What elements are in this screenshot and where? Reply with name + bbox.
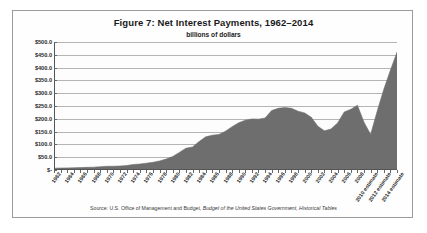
x-axis-tick-mark (67, 170, 68, 173)
area-fill-path (54, 52, 397, 170)
y-axis-tick-mark (54, 42, 57, 43)
x-axis-tick-mark (219, 170, 220, 173)
x-axis-tick-mark (113, 170, 114, 173)
x-axis-tick-mark (61, 170, 62, 173)
x-axis-tick-mark (357, 170, 358, 173)
x-axis-tick-mark (54, 170, 55, 173)
y-axis-tick-label: $350.0 (35, 77, 52, 83)
plot-area (54, 42, 397, 170)
x-axis-tick-mark (179, 170, 180, 173)
source-note-prefix: Source: U.S. Office of Management and Bu… (90, 205, 203, 211)
x-axis-tick-mark (199, 170, 200, 173)
x-axis-tick-mark (226, 170, 227, 173)
x-axis-tick-mark (140, 170, 141, 173)
x-axis-tick-mark (186, 170, 187, 173)
x-axis-tick-mark (239, 170, 240, 173)
x-axis-tick-mark (100, 170, 101, 173)
x-axis-tick-mark (397, 170, 398, 173)
x-axis-tick-mark (120, 170, 121, 173)
x-axis-tick-mark (318, 170, 319, 173)
y-axis-tick-label: $450.0 (35, 52, 52, 58)
source-note-publication: Budget of the United States Government, … (203, 205, 337, 211)
y-axis-tick-mark (54, 68, 57, 69)
x-axis-tick-mark (87, 170, 88, 173)
chart-title: Figure 7: Net Interest Payments, 1962–20… (13, 17, 414, 28)
y-axis-tick-mark (54, 93, 57, 94)
x-axis-tick-mark (153, 170, 154, 173)
figure-frame: Figure 7: Net Interest Payments, 1962–20… (12, 10, 413, 218)
x-axis-tick-mark (107, 170, 108, 173)
x-axis-tick-mark (166, 170, 167, 173)
y-axis-tick-label: $300.0 (35, 90, 52, 96)
x-axis-tick-mark (94, 170, 95, 173)
x-axis-tick-mark (193, 170, 194, 173)
x-axis-tick-mark (232, 170, 233, 173)
x-axis-tick-mark (133, 170, 134, 173)
x-axis-tick-mark (351, 170, 352, 173)
x-axis-tick-mark (245, 170, 246, 173)
y-axis-tick-mark (54, 80, 57, 81)
y-axis-tick-label: $250.0 (35, 103, 52, 109)
x-axis-tick-mark (212, 170, 213, 173)
x-axis-tick-mark (252, 170, 253, 173)
x-axis-tick-mark (311, 170, 312, 173)
y-axis-tick-label: $100.0 (35, 141, 52, 147)
x-axis-tick-mark (338, 170, 339, 173)
source-note: Source: U.S. Office of Management and Bu… (13, 205, 414, 211)
x-axis-tick-mark (364, 170, 365, 173)
y-axis-tick-mark (54, 106, 57, 107)
y-axis-tick-label: $- (47, 167, 52, 173)
x-axis-tick-mark (324, 170, 325, 173)
y-axis-tick-label: $500.0 (35, 39, 52, 45)
area-series-net-interest-payments (54, 42, 397, 170)
x-axis-tick-mark (377, 170, 378, 173)
x-axis-tick-mark (272, 170, 273, 173)
x-axis-tick-mark (127, 170, 128, 173)
y-axis-tick-label: $150.0 (35, 129, 52, 135)
x-axis-tick-mark (305, 170, 306, 173)
x-axis-tick-mark (74, 170, 75, 173)
x-axis-tick-mark (331, 170, 332, 173)
x-axis-tick-mark (146, 170, 147, 173)
x-axis-tick-mark (384, 170, 385, 173)
x-axis-tick-mark (258, 170, 259, 173)
x-axis-tick-mark (285, 170, 286, 173)
y-axis-tick-label: $50.0 (38, 154, 52, 160)
x-axis-tick-mark (371, 170, 372, 173)
x-axis-tick-mark (173, 170, 174, 173)
x-axis-tick-mark (291, 170, 292, 173)
y-axis-labels: $500.0$450.0$400.0$350.0$300.0$250.0$200… (13, 42, 52, 170)
y-axis-tick-label: $200.0 (35, 116, 52, 122)
y-axis-tick-mark (54, 55, 57, 56)
x-axis-tick-mark (80, 170, 81, 173)
y-axis-tick-label: $400.0 (35, 65, 52, 71)
y-axis-tick-mark (54, 132, 57, 133)
x-axis-tick-mark (160, 170, 161, 173)
x-axis-tick-mark (390, 170, 391, 173)
y-axis-tick-mark (54, 157, 57, 158)
chart-subtitle: billions of dollars (13, 31, 414, 38)
x-axis-tick-mark (206, 170, 207, 173)
y-axis-tick-mark (54, 144, 57, 145)
x-axis-tick-mark (265, 170, 266, 173)
y-axis-tick-mark (54, 119, 57, 120)
x-axis-tick-mark (344, 170, 345, 173)
x-axis-tick-mark (298, 170, 299, 173)
x-axis-tick-mark (278, 170, 279, 173)
